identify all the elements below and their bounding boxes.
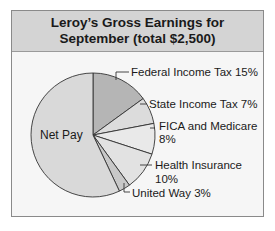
label-net-pay: Net Pay xyxy=(40,128,83,142)
label-fica-1: FICA and Medicare xyxy=(159,120,257,132)
label-health-1: Health Insurance xyxy=(155,159,242,171)
label-fica-2: 8% xyxy=(159,133,176,145)
label-state: State Income Tax 7% xyxy=(149,98,257,110)
label-federal: Federal Income Tax 15% xyxy=(131,66,258,78)
label-united-way: United Way 3% xyxy=(132,187,211,199)
label-health-2: 10% xyxy=(155,173,178,185)
pie-chart: Federal Income Tax 15% State Income Tax … xyxy=(0,0,275,231)
